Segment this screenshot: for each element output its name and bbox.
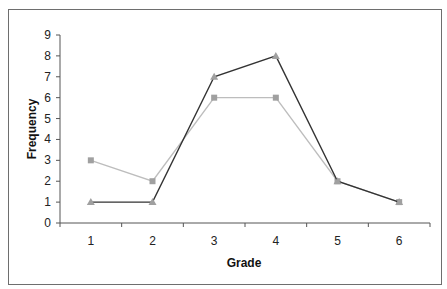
x-tick-label: 2: [149, 234, 156, 248]
x-tick-label: 1: [87, 234, 94, 248]
x-tick-label: 4: [272, 234, 279, 248]
square-marker: [150, 178, 156, 184]
y-tick-label: 2: [44, 174, 51, 188]
y-tick-label: 3: [44, 153, 51, 167]
y-tick-label: 5: [44, 112, 51, 126]
y-tick-label: 9: [44, 28, 51, 42]
x-tick-label: 6: [396, 234, 403, 248]
square-marker: [273, 95, 279, 101]
x-axis-title: Grade: [227, 256, 262, 270]
y-axis-title: Frequency: [25, 98, 39, 159]
y-tick-label: 1: [44, 195, 51, 209]
x-tick-label: 3: [211, 234, 218, 248]
y-tick-label: 4: [44, 132, 51, 146]
square-marker: [88, 157, 94, 163]
y-axis: 0123456789: [44, 28, 60, 230]
x-axis: 123456: [60, 223, 430, 248]
y-tick-label: 0: [44, 216, 51, 230]
square-marker: [211, 95, 217, 101]
series-layer: [87, 52, 403, 205]
line-chart: 0123456789 123456 Grade Frequency: [0, 0, 447, 289]
y-tick-label: 6: [44, 91, 51, 105]
series-series-b: [88, 95, 402, 205]
y-tick-label: 8: [44, 49, 51, 63]
triangle-marker: [272, 52, 280, 59]
series-line: [91, 56, 399, 202]
series-series-a: [87, 52, 403, 205]
x-tick-label: 5: [334, 234, 341, 248]
y-tick-label: 7: [44, 70, 51, 84]
